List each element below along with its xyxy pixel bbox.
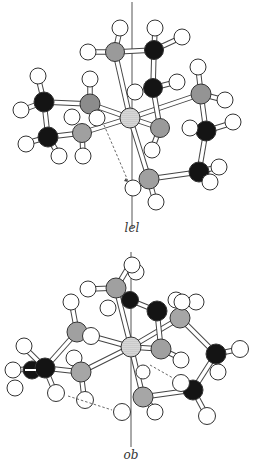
ob-hbond-dashed-right	[150, 365, 173, 378]
ob-label: ob	[111, 448, 151, 462]
lel-metal-atom	[120, 108, 140, 128]
ob-metal-atom	[121, 337, 141, 357]
lel-label: lel	[112, 221, 152, 235]
lel-hbond-dashed	[104, 125, 128, 181]
lel-molecule	[13, 2, 241, 228]
ob-molecule	[5, 252, 249, 447]
